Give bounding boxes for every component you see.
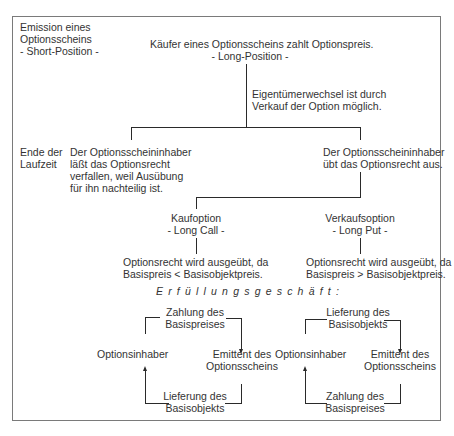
put-node: Verkaufsoption- Long Put -: [310, 212, 410, 236]
cycle-put-top-left-line: [305, 319, 327, 320]
call-node: Kaufoption- Long Call -: [146, 212, 246, 236]
branch-right-connector: [360, 127, 361, 140]
cycle-call-left-bottom-line: [145, 370, 146, 404]
split-bar-top: [131, 127, 361, 128]
cycle-call-left-top-line: [145, 317, 146, 334]
cycle-put-top-right-line: [384, 320, 401, 321]
branch-left-node: Der Optionsscheininhaberläßt das Options…: [70, 146, 191, 194]
branch-right-node: Der Optionsscheininhaberübt das Optionsr…: [323, 146, 444, 170]
branch-left-connector: [131, 127, 132, 140]
end-of-term-label: Ende derLaufzeit: [20, 146, 63, 170]
split-bar-exercise: [196, 197, 361, 198]
cycle-call-bottom-label: Lieferung desBasisobjekts: [155, 390, 235, 414]
cycle-put-right-label: Emittent desOptionsscheins: [362, 348, 438, 372]
cycle-call-top-left-line: [145, 317, 160, 318]
call-stem: [196, 238, 197, 254]
cycle-call-right-bottom-line: [241, 384, 242, 404]
cycle-put-left-bottom-line: [305, 370, 306, 404]
settlement-title: Erfüllungsgeschäft:: [150, 285, 350, 297]
cycle-call-top-right-line: [226, 318, 241, 319]
stem-note: Eigentümerwechsel ist durchVerkauf der O…: [252, 88, 386, 112]
cycle-put-bottom-label: Zahlung desBasispreises: [315, 390, 395, 414]
cycle-put-top-label: Lieferung desBasisobjekts: [318, 306, 398, 330]
exercise-stem: [360, 172, 361, 198]
root-node: Käufer eines Optionsscheins zahlt Option…: [150, 38, 350, 62]
call-result: Optionsrecht wird ausgeübt, daBasispreis…: [123, 256, 268, 280]
put-stem: [360, 238, 361, 254]
cycle-put-right-top-line: [400, 320, 401, 351]
cycle-call-right-label: Emittent desOptionsscheins: [205, 348, 279, 372]
root-stem: [246, 64, 247, 128]
cycle-call-left-label: Optionsinhaber: [97, 348, 168, 360]
cycle-put-right-bottom-line: [400, 384, 401, 404]
cycle-call-right-top-line: [241, 318, 242, 350]
emission-label: Emission einesOptionsscheins- Short-Posi…: [20, 21, 99, 57]
cycle-put-left-top-line: [305, 319, 306, 334]
put-result: Optionsrecht wird ausgeübt, daBasispreis…: [306, 256, 451, 280]
cycle-call-top-label: Zahlung desBasispreises: [155, 306, 235, 330]
call-connector: [196, 197, 197, 209]
cycle-put-left-label: Optionsinhaber: [275, 348, 346, 360]
